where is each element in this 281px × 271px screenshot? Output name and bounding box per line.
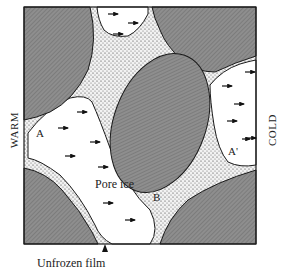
label-warm-side: WARM [8, 110, 20, 150]
label-unfrozen-film: Unfrozen film [37, 257, 105, 269]
unfrozen-film-pointer [102, 244, 108, 252]
label-point-a: A [36, 128, 44, 139]
label-point-a-prime: A' [228, 146, 238, 157]
label-cold-side: COLD [266, 110, 278, 150]
label-point-b: B [153, 192, 160, 203]
label-pore-ice: Pore ice [95, 178, 134, 190]
